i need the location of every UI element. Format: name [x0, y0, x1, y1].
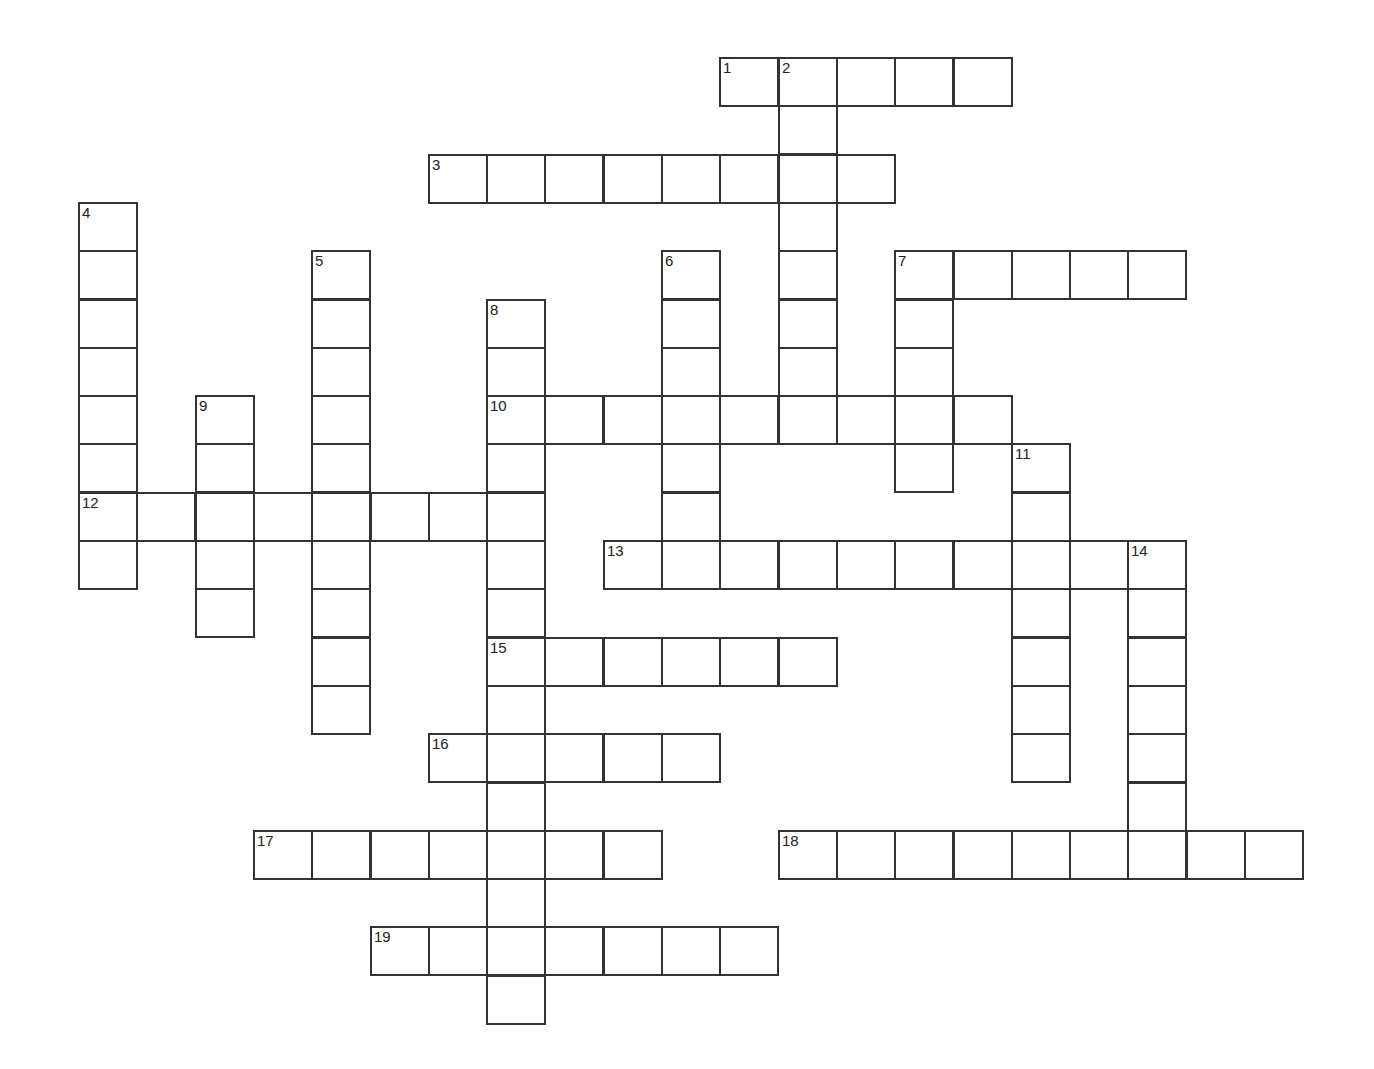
- crossword-cell[interactable]: [661, 926, 721, 976]
- crossword-cell[interactable]: [544, 637, 604, 687]
- crossword-cell[interactable]: [836, 830, 896, 880]
- crossword-cell[interactable]: [778, 202, 838, 252]
- crossword-cell[interactable]: [1011, 637, 1071, 687]
- crossword-cell[interactable]: [486, 878, 546, 928]
- crossword-cell[interactable]: [603, 733, 663, 783]
- crossword-cell[interactable]: [1011, 830, 1071, 880]
- crossword-cell[interactable]: 10: [486, 395, 546, 445]
- crossword-cell[interactable]: [428, 492, 488, 542]
- crossword-cell[interactable]: [1127, 588, 1187, 638]
- crossword-cell[interactable]: [1011, 733, 1071, 783]
- crossword-cell[interactable]: 11: [1011, 443, 1071, 493]
- crossword-cell[interactable]: [603, 830, 663, 880]
- crossword-cell[interactable]: [894, 540, 954, 590]
- crossword-cell[interactable]: [486, 443, 546, 493]
- crossword-cell[interactable]: [719, 637, 779, 687]
- crossword-cell[interactable]: [836, 540, 896, 590]
- crossword-cell[interactable]: 13: [603, 540, 663, 590]
- crossword-cell[interactable]: [661, 395, 721, 445]
- crossword-cell[interactable]: [78, 250, 138, 300]
- crossword-cell[interactable]: 12: [78, 492, 138, 542]
- crossword-cell[interactable]: [661, 154, 721, 204]
- crossword-cell[interactable]: 17: [253, 830, 313, 880]
- crossword-cell[interactable]: [661, 637, 721, 687]
- crossword-cell[interactable]: [311, 830, 371, 880]
- crossword-cell[interactable]: [1011, 492, 1071, 542]
- crossword-cell[interactable]: [661, 347, 721, 397]
- crossword-cell[interactable]: 4: [78, 202, 138, 252]
- crossword-cell[interactable]: [486, 685, 546, 735]
- crossword-cell[interactable]: [661, 492, 721, 542]
- crossword-cell[interactable]: [486, 733, 546, 783]
- crossword-cell[interactable]: [136, 492, 196, 542]
- crossword-cell[interactable]: [953, 395, 1013, 445]
- crossword-cell[interactable]: 1: [719, 57, 779, 107]
- crossword-cell[interactable]: [311, 540, 371, 590]
- crossword-cell[interactable]: [778, 395, 838, 445]
- crossword-cell[interactable]: [78, 299, 138, 349]
- crossword-cell[interactable]: [311, 685, 371, 735]
- crossword-cell[interactable]: 14: [1127, 540, 1187, 590]
- crossword-cell[interactable]: [778, 299, 838, 349]
- crossword-cell[interactable]: [78, 347, 138, 397]
- crossword-cell[interactable]: [486, 588, 546, 638]
- crossword-cell[interactable]: 16: [428, 733, 488, 783]
- crossword-cell[interactable]: [894, 443, 954, 493]
- crossword-cell[interactable]: [370, 492, 430, 542]
- crossword-cell[interactable]: [894, 57, 954, 107]
- crossword-cell[interactable]: [1011, 250, 1071, 300]
- crossword-cell[interactable]: 19: [370, 926, 430, 976]
- crossword-cell[interactable]: 6: [661, 250, 721, 300]
- crossword-cell[interactable]: [1011, 540, 1071, 590]
- crossword-cell[interactable]: [719, 540, 779, 590]
- crossword-cell[interactable]: [836, 57, 896, 107]
- crossword-cell[interactable]: [311, 395, 371, 445]
- crossword-cell[interactable]: [311, 299, 371, 349]
- crossword-cell[interactable]: [953, 540, 1013, 590]
- crossword-cell[interactable]: 3: [428, 154, 488, 204]
- crossword-cell[interactable]: [486, 492, 546, 542]
- crossword-cell[interactable]: 8: [486, 299, 546, 349]
- crossword-cell[interactable]: [78, 395, 138, 445]
- crossword-cell[interactable]: 15: [486, 637, 546, 687]
- crossword-cell[interactable]: [894, 395, 954, 445]
- crossword-cell[interactable]: [486, 830, 546, 880]
- crossword-cell[interactable]: [428, 830, 488, 880]
- crossword-cell[interactable]: [778, 105, 838, 155]
- crossword-cell[interactable]: [1127, 830, 1187, 880]
- crossword-cell[interactable]: [836, 395, 896, 445]
- crossword-cell[interactable]: [603, 926, 663, 976]
- crossword-cell[interactable]: [778, 540, 838, 590]
- crossword-cell[interactable]: [1127, 733, 1187, 783]
- crossword-cell[interactable]: [719, 926, 779, 976]
- crossword-cell[interactable]: [78, 443, 138, 493]
- crossword-cell[interactable]: [661, 299, 721, 349]
- crossword-cell[interactable]: [719, 154, 779, 204]
- crossword-cell[interactable]: [195, 492, 255, 542]
- crossword-cell[interactable]: 18: [778, 830, 838, 880]
- crossword-cell[interactable]: [778, 250, 838, 300]
- crossword-cell[interactable]: [78, 540, 138, 590]
- crossword-cell[interactable]: [195, 540, 255, 590]
- crossword-cell[interactable]: [778, 154, 838, 204]
- crossword-cell[interactable]: [1069, 250, 1129, 300]
- crossword-cell[interactable]: [661, 443, 721, 493]
- crossword-cell[interactable]: [311, 347, 371, 397]
- crossword-cell[interactable]: [1244, 830, 1304, 880]
- crossword-cell[interactable]: 7: [894, 250, 954, 300]
- crossword-cell[interactable]: [603, 637, 663, 687]
- crossword-cell[interactable]: [486, 926, 546, 976]
- crossword-cell[interactable]: [894, 299, 954, 349]
- crossword-cell[interactable]: [1127, 685, 1187, 735]
- crossword-cell[interactable]: [661, 733, 721, 783]
- crossword-cell[interactable]: [778, 347, 838, 397]
- crossword-cell[interactable]: [1011, 588, 1071, 638]
- crossword-cell[interactable]: [253, 492, 313, 542]
- crossword-cell[interactable]: [311, 492, 371, 542]
- crossword-cell[interactable]: [894, 347, 954, 397]
- crossword-cell[interactable]: [544, 395, 604, 445]
- crossword-cell[interactable]: [719, 395, 779, 445]
- crossword-cell[interactable]: [894, 830, 954, 880]
- crossword-cell[interactable]: [603, 154, 663, 204]
- crossword-cell[interactable]: [311, 443, 371, 493]
